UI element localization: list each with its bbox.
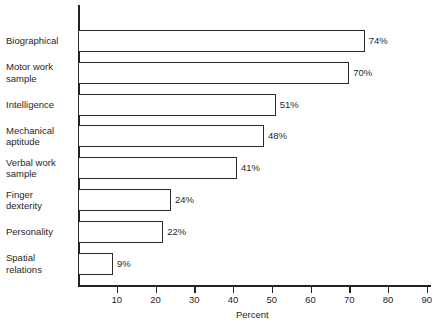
bar-value-label: 24% [175, 195, 194, 205]
x-tick-label: 90 [421, 294, 432, 305]
category-label: Biographical [6, 35, 78, 47]
bar [78, 125, 264, 147]
category-label: Motor work sample [6, 61, 78, 84]
bar-value-label: 51% [280, 100, 299, 110]
bar [78, 221, 163, 243]
bar [78, 189, 171, 211]
x-tick-label: 30 [189, 294, 200, 305]
category-label: Personality [6, 226, 78, 238]
category-label: Verbal work sample [6, 157, 78, 180]
category-label: Intelligence [6, 99, 78, 111]
bar [78, 94, 276, 116]
x-axis-title: Percent [236, 309, 269, 320]
x-tick-mark [117, 287, 118, 293]
x-tick-label: 70 [344, 294, 355, 305]
bar-value-label: 48% [268, 131, 287, 141]
x-tick-mark [388, 287, 389, 293]
x-tick-mark [311, 287, 312, 293]
x-tick-mark [427, 287, 428, 293]
x-tick-mark [156, 287, 157, 293]
x-tick-label: 50 [266, 294, 277, 305]
x-tick-label: 20 [150, 294, 161, 305]
x-tick-label: 10 [111, 294, 122, 305]
bar-chart: BiographicalMotor work sampleIntelligenc… [0, 0, 448, 325]
bar-value-label: 70% [353, 68, 372, 78]
category-axis-labels: BiographicalMotor work sampleIntelligenc… [6, 0, 78, 325]
bar [78, 157, 237, 179]
bar-value-label: 22% [167, 227, 186, 237]
x-tick-label: 40 [228, 294, 239, 305]
plot-area: 74%70%51%48%41%24%22%9% 1020304050607080… [78, 0, 448, 325]
category-label: Finger dexterity [6, 189, 78, 212]
bar-value-label: 9% [117, 259, 131, 269]
bar-value-label: 74% [369, 36, 388, 46]
x-tick-mark [272, 287, 273, 293]
x-tick-mark [349, 287, 350, 293]
x-tick-label: 60 [305, 294, 316, 305]
bar [78, 253, 113, 275]
x-tick-mark [233, 287, 234, 293]
bar [78, 30, 365, 52]
x-axis-line [78, 285, 431, 287]
category-label: Spatial relations [6, 252, 78, 275]
bar-value-label: 41% [241, 163, 260, 173]
category-label: Mechanical aptitude [6, 125, 78, 148]
x-tick-mark [194, 287, 195, 293]
x-tick-label: 80 [383, 294, 394, 305]
bar [78, 62, 349, 84]
